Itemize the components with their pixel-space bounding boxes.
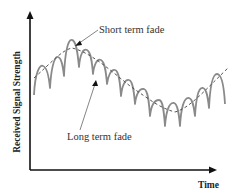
long-term-fade-label: Long term fade [67, 131, 132, 142]
x-axis-label: Time [198, 180, 219, 190]
x-axis-arrow-icon [209, 167, 217, 174]
short-term-fading-curve [34, 40, 225, 126]
long-term-fading-curve [34, 48, 228, 112]
y-axis-label: Received Signal Strength [12, 47, 22, 157]
long-term-leader-line [80, 84, 95, 130]
long-term-pointer-icon [92, 80, 98, 86]
short-term-pointer-icon [75, 41, 82, 47]
short-term-fade-label: Short term fade [99, 24, 164, 35]
short-term-leader-line [78, 30, 98, 44]
y-axis-arrow-icon [27, 11, 34, 19]
